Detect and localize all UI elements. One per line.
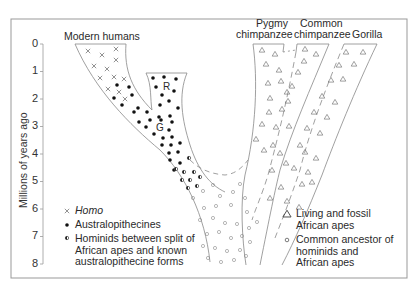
legend-homo: Homo — [75, 205, 103, 217]
legend-african-apes-line1: Living and fossil — [296, 208, 371, 220]
label-common-chimpanzee-2: chimpanzee — [294, 29, 351, 40]
y-tick-2: 2 — [24, 92, 38, 104]
legend-early-hominids-line3: australopithecine forms — [75, 256, 195, 268]
common-ancestor-markers — [191, 182, 258, 263]
y-tick-0: 0 — [24, 37, 38, 49]
legend-common-ancestor-line3: African apes — [296, 257, 393, 269]
legend-early-hominids: Hominids between split of African apes a… — [75, 233, 195, 268]
legend-african-apes-line2: African apes — [296, 220, 371, 232]
ape-lineage-outline — [190, 44, 377, 265]
australopithecine-markers — [112, 75, 182, 172]
ape-markers — [253, 46, 366, 209]
legend-australopithecines: Australopithecines — [75, 219, 161, 231]
legend-early-hominids-line1: Hominids between split of — [75, 233, 195, 245]
homo-markers — [86, 47, 127, 101]
label-gorilla: Gorilla — [352, 29, 382, 40]
label-gracile-g: G — [156, 122, 164, 133]
legend-african-apes: Living and fossil African apes — [296, 208, 371, 231]
legend-cross-icon — [65, 209, 69, 213]
legend-homo-label: Homo — [75, 204, 103, 216]
label-pygmy-chimpanzee-2: chimpanzee — [236, 29, 293, 40]
legend-common-ancestor-line1: Common ancestor of — [296, 234, 393, 246]
label-robust-r: R — [163, 81, 170, 92]
legend-circle-icon — [285, 238, 289, 242]
y-axis — [40, 44, 43, 264]
y-tick-8: 8 — [24, 257, 38, 269]
label-modern-humans: Modern humans — [64, 31, 140, 42]
legend-half-dot-icon — [65, 236, 68, 239]
legend-triangle-icon — [283, 210, 291, 217]
y-tick-7: 7 — [24, 229, 38, 241]
y-tick-1: 1 — [24, 64, 38, 76]
y-axis-label: Millions of years ago — [17, 112, 29, 208]
legend-australopithecines-label: Australopithecines — [75, 218, 161, 230]
legend-filled-dot-icon — [65, 223, 69, 227]
legend-common-ancestor: Common ancestor of hominids and African … — [296, 234, 393, 269]
